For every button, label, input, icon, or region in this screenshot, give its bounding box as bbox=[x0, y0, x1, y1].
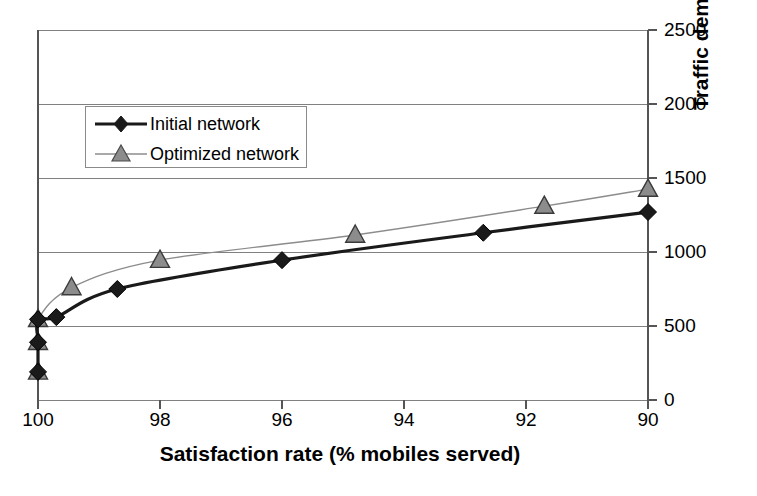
x-tick-label-94: 94 bbox=[374, 409, 434, 431]
data-point-marker bbox=[639, 179, 658, 196]
data-point-marker bbox=[109, 281, 126, 298]
x-tick-label-96: 96 bbox=[252, 409, 312, 431]
y-tick-label-500: 500 bbox=[664, 315, 696, 337]
diamond-marker-icon bbox=[92, 110, 150, 138]
legend-item-optimized-network: Optimized network bbox=[86, 138, 306, 169]
data-point-marker bbox=[475, 224, 492, 241]
data-point-marker bbox=[48, 309, 65, 326]
data-point-marker bbox=[640, 204, 657, 221]
y-tick-label-1000: 1000 bbox=[664, 241, 706, 263]
series-line-optimized-network bbox=[36, 189, 648, 372]
chart-legend: Initial network Optimized network bbox=[85, 106, 307, 168]
data-point-marker bbox=[274, 252, 291, 269]
x-tick-label-92: 92 bbox=[496, 409, 556, 431]
x-axis-title: Satisfaction rate (% mobiles served) bbox=[0, 442, 680, 466]
legend-label-initial-network: Initial network bbox=[150, 115, 260, 133]
triangle-marker-icon bbox=[92, 140, 150, 168]
x-tick-label-90: 90 bbox=[618, 409, 678, 431]
data-point-marker bbox=[62, 278, 81, 295]
legend-item-initial-network: Initial network bbox=[86, 108, 306, 139]
y-axis-title: Traffic demand bbox=[689, 0, 713, 110]
y-tick-label-0: 0 bbox=[664, 389, 675, 411]
legend-label-optimized-network: Optimized network bbox=[150, 145, 299, 163]
chart-figure: 2500 2000 1500 1000 500 0 100 98 96 94 9… bbox=[0, 0, 757, 496]
x-tick-label-98: 98 bbox=[130, 409, 190, 431]
y-tick-label-1500: 1500 bbox=[664, 167, 706, 189]
x-tick-label-100: 100 bbox=[8, 409, 68, 431]
